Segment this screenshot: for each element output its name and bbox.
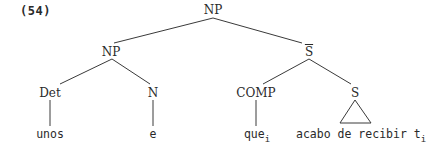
edge-root-sbar	[213, 18, 302, 43]
edge-leftnp-n	[112, 59, 150, 84]
leaf-que-subscript: i	[265, 134, 270, 144]
edge-sbar-comp	[263, 59, 309, 84]
triangle-abbreviation	[340, 100, 371, 123]
leaf-s-phrase: acabo de recibir ti	[296, 127, 426, 141]
leaf-e: e	[150, 127, 157, 141]
leaf-recibir: recibir	[358, 127, 406, 141]
node-n: N	[148, 86, 159, 100]
example-number: (54)	[20, 4, 51, 18]
edge-sbar-s	[309, 59, 351, 84]
edge-root-leftnp	[114, 18, 213, 43]
leaf-que-text: que	[244, 127, 265, 141]
node-left-np: NP	[102, 45, 121, 59]
node-root-np: NP	[204, 3, 223, 17]
node-s: S	[351, 86, 359, 100]
leaf-trace: t	[414, 127, 421, 141]
node-s-bar: S	[305, 45, 313, 59]
leaf-de: de	[338, 127, 352, 141]
node-comp: COMP	[236, 86, 275, 100]
leaf-que: quei	[244, 127, 270, 141]
leaf-trace-subscript: i	[421, 134, 426, 144]
edge-leftnp-det	[60, 59, 112, 84]
leaf-unos: unos	[36, 127, 64, 141]
syntax-tree-diagram: (54) NP NP S Det N COMP S unos e quei ac…	[0, 0, 432, 149]
leaf-acabo: acabo	[296, 127, 331, 141]
node-det: Det	[39, 86, 61, 100]
